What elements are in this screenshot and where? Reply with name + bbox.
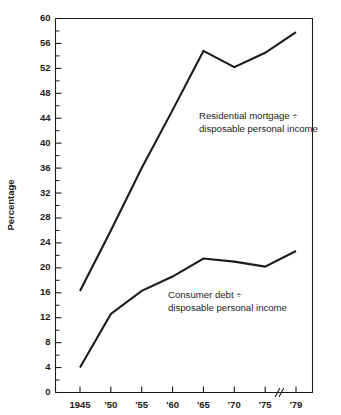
chart-background: [0, 0, 341, 415]
y-tick-label: 16: [40, 286, 51, 297]
annotation-residential-mortgage-line2: disposable personal income: [199, 123, 318, 134]
y-tick-label: 56: [40, 37, 51, 48]
annotation-consumer-debt-line1: Consumer debt ÷: [168, 289, 242, 300]
y-axis-title: Percentage: [5, 179, 16, 230]
x-tick-label: '55: [135, 399, 149, 410]
y-tick-label: 8: [45, 336, 50, 347]
y-tick-label: 24: [40, 236, 51, 247]
y-tick-label: 44: [40, 112, 51, 123]
y-tick-label: 40: [40, 137, 51, 148]
x-tick-label: '70: [228, 399, 241, 410]
y-tick-label: 28: [40, 211, 51, 222]
annotation-consumer-debt-line2: disposable personal income: [168, 302, 287, 313]
y-tick-label: 52: [40, 62, 51, 73]
x-tick-label: '75: [259, 399, 273, 410]
y-tick-label: 12: [40, 311, 51, 322]
y-tick-label: 36: [40, 162, 51, 173]
x-tick-label: '50: [104, 399, 117, 410]
x-tick-label: '60: [166, 399, 179, 410]
chart-container: 04812162024283236404448525660 1945'50'55…: [0, 0, 341, 415]
y-tick-label: 20: [40, 261, 51, 272]
x-tick-label: '65: [197, 399, 211, 410]
y-tick-label: 0: [45, 386, 50, 397]
line-chart: 04812162024283236404448525660 1945'50'55…: [0, 0, 341, 415]
y-tick-label: 4: [45, 361, 51, 372]
x-tick-label: '79: [290, 399, 303, 410]
y-tick-label: 32: [40, 187, 51, 198]
y-tick-label: 48: [40, 87, 51, 98]
annotation-residential-mortgage-line1: Residential mortgage ÷: [199, 110, 298, 121]
y-tick-label: 60: [40, 12, 51, 23]
x-tick-label: 1945: [69, 399, 91, 410]
